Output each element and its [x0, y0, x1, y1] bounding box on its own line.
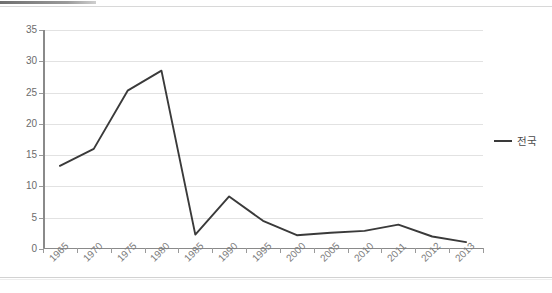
series-line-jeonguk — [60, 71, 466, 242]
y-tick-label: 15 — [7, 150, 37, 160]
y-tick-label: 25 — [7, 88, 37, 98]
y-tick-label: 0 — [7, 244, 37, 254]
y-tick-label: 5 — [7, 213, 37, 223]
scan-artifact-bottom-rule — [0, 277, 552, 278]
x-tick-mark — [483, 248, 484, 253]
y-tick-label: 10 — [7, 181, 37, 191]
series-plot-area — [43, 30, 483, 249]
scan-artifact-bottom-rule-secondary — [0, 279, 552, 280]
scan-artifact-top-rule — [0, 6, 552, 7]
legend-swatch-jeonguk — [494, 140, 512, 142]
legend-label-jeonguk: 전국 — [517, 135, 537, 147]
y-tick-label: 35 — [7, 25, 37, 35]
chart-legend: 전국 — [494, 135, 537, 147]
y-tick-label: 30 — [7, 56, 37, 66]
y-tick-label: 20 — [7, 119, 37, 129]
y-axis-tick-labels: 05101520253035 — [5, 30, 37, 249]
scan-artifact-top-bar — [0, 1, 96, 4]
line-chart-figure: 05101520253035 1965197019751980198519901… — [0, 8, 552, 276]
